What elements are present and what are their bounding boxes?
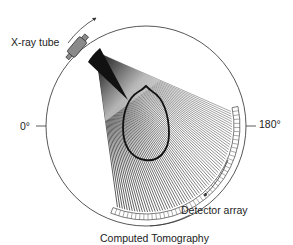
diagram-title: Computed Tomography: [100, 233, 209, 244]
detector-array-label: Detector array: [181, 205, 248, 216]
xray-tube-label: X-ray tube: [11, 37, 59, 48]
angle-0-label: 0°: [20, 121, 30, 132]
angle-180-label: 180°: [259, 119, 281, 130]
xray-tube: [64, 32, 91, 61]
